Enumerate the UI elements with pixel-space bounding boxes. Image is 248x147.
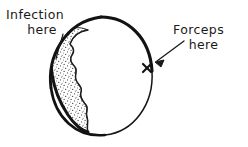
infection-region bbox=[51, 28, 88, 132]
forceps-label-line2: here bbox=[183, 37, 224, 52]
forceps-label: Forceps here bbox=[173, 22, 224, 52]
forceps-x-mark-icon bbox=[143, 64, 151, 72]
forceps-arrowhead-icon bbox=[155, 60, 164, 67]
oval-outline-top-right bbox=[101, 17, 152, 71]
oval-outline-bottom-right bbox=[105, 71, 152, 135]
forceps-label-line1: Forceps bbox=[173, 22, 224, 37]
diagram-canvas: Infection here Forceps here bbox=[0, 0, 248, 147]
infection-label-line2: here bbox=[20, 22, 64, 37]
infection-label-line1: Infection bbox=[6, 7, 64, 22]
infection-label: Infection here bbox=[6, 7, 64, 37]
